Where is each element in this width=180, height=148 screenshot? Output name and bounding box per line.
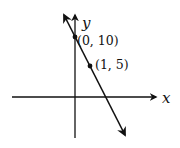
point-1-5 [88, 64, 93, 69]
x-axis-label: x [162, 89, 171, 107]
point-label-1-5: (1, 5) [95, 57, 129, 72]
point-label-0-10: (0, 10) [77, 33, 119, 48]
graph-canvas: y x (0, 10) (1, 5) [0, 0, 180, 148]
y-axis-label: y [81, 14, 91, 32]
